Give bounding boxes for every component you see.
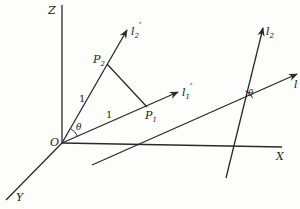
- intersection-angle-label: θ: [248, 88, 254, 98]
- l-label: l: [294, 78, 298, 91]
- op2-length-label: 1: [79, 93, 85, 104]
- l-arrow: [92, 74, 297, 165]
- z-axis-label: Z: [47, 4, 56, 17]
- y-axis-label: Y: [16, 191, 25, 204]
- p2-p1-segment: [107, 64, 147, 107]
- x-axis: [62, 143, 282, 147]
- l1-prime-label: l1′: [182, 81, 193, 101]
- l2-label: l2: [266, 25, 275, 40]
- p1-label: P1: [144, 109, 157, 124]
- p2-label: P2: [92, 53, 105, 68]
- diagram-canvas: Z X Y O l2′ l1′ P2 P1 1 1 θ l2 l θ: [0, 0, 300, 209]
- origin-angle-label: θ: [76, 122, 82, 132]
- op1-length-label: 1: [106, 109, 112, 120]
- y-axis: [6, 143, 62, 200]
- l2-prime-label: l2′: [131, 20, 142, 40]
- origin-label: O: [50, 136, 59, 149]
- x-axis-label: X: [275, 150, 285, 163]
- angle-between-lines-diagram: Z X Y O l2′ l1′ P2 P1 1 1 θ l2 l θ: [0, 0, 300, 209]
- l2-prime-arrow: [62, 30, 127, 143]
